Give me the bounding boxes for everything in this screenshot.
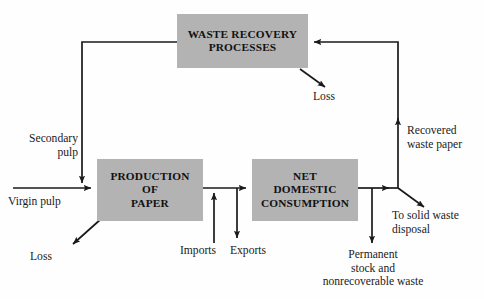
node-consumption-label: NET DOMESTIC CONSUMPTION	[252, 170, 358, 209]
edge-label-recovered-waste-paper: Recovered waste paper	[407, 124, 484, 151]
edge-label-loss-production: Loss	[30, 250, 76, 264]
node-waste-recovery-label: WASTE RECOVERY PROCESSES	[177, 28, 308, 54]
edge-recovered-waste-paper-top	[314, 42, 398, 122]
edge-label-virgin-pulp: Virgin pulp	[8, 195, 86, 209]
edge-label-exports: Exports	[225, 244, 271, 258]
edge-solid-waste	[398, 188, 424, 207]
edge-label-permanent-stock: Permanent stock and nonrecoverable waste	[311, 248, 435, 289]
edge-waste-recovery-loss	[300, 69, 325, 87]
node-waste-recovery-processes[interactable]: WASTE RECOVERY PROCESSES	[177, 14, 308, 68]
edge-label-imports: Imports	[176, 244, 220, 258]
node-net-domestic-consumption[interactable]: NET DOMESTIC CONSUMPTION	[252, 159, 358, 221]
node-production-of-paper[interactable]: PRODUCTION OF PAPER	[97, 159, 203, 221]
node-production-label: PRODUCTION OF PAPER	[97, 170, 203, 209]
flow-diagram-canvas: WASTE RECOVERY PROCESSES PRODUCTION OF P…	[0, 0, 484, 299]
edge-label-solid-waste-disposal: To solid waste disposal	[392, 209, 482, 236]
edge-label-secondary-pulp: Secondary pulp	[8, 132, 78, 159]
edge-production-loss	[73, 219, 101, 244]
edge-label-loss-waste-recovery: Loss	[313, 90, 353, 104]
